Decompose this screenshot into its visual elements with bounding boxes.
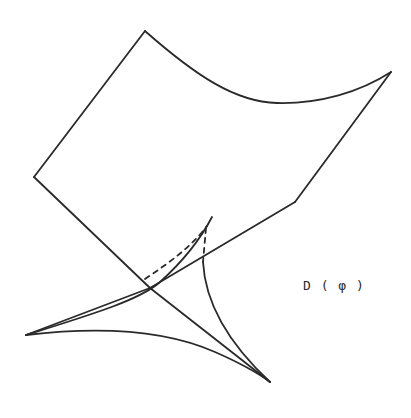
bottom-cusp-curve [26,330,270,382]
sheet-lower-edge [26,202,295,335]
diagram-label: D ( φ ) [303,278,365,293]
diagonal-fold-line [34,177,270,382]
sheet-right-edge [295,72,391,202]
sheet-upper-left-edge [34,31,145,177]
diagram-canvas [0,0,411,418]
right-cusp-curve [203,262,270,382]
sheet-top-curved-edge [145,31,391,103]
hidden-dashed-curve [145,226,207,279]
upper-cusp-curve [26,217,212,335]
